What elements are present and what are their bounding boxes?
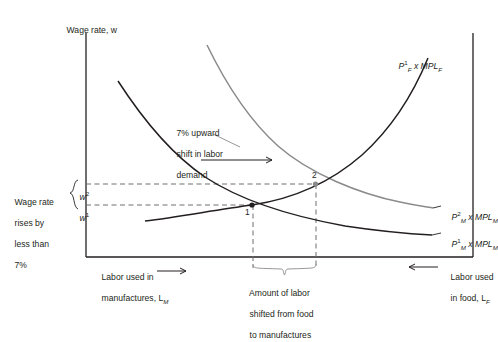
amount-brace <box>253 264 316 275</box>
equilibrium-point-1 <box>249 202 254 207</box>
wage-rate-annotation: Wage rate rises by less than 7% <box>5 186 54 281</box>
arrow-food-direction <box>409 264 438 270</box>
curve-manufactures-1 <box>118 81 432 235</box>
amount-of-labor-annotation: Amount of labor shifted from food to man… <box>240 277 314 342</box>
label-leader-manu-1 <box>432 233 441 235</box>
curve-label-food-1: P1F x MPLF <box>389 47 442 85</box>
point-2-label: 2 <box>312 170 317 180</box>
label-leader-manu-2 <box>433 206 441 208</box>
w1-label: w1 <box>70 199 89 234</box>
x-axis-label-manufactures: Labor used in manufactures, LM <box>92 261 168 318</box>
point-1-label: 1 <box>245 207 250 217</box>
x-axis-label-food: Labor used in food, LF <box>441 261 494 318</box>
curve-label-manufactures-1: P1M x MPLM <box>442 225 498 263</box>
y-axis-title: Wage rate, w <box>57 14 117 46</box>
shift-annotation: 7% upward shift in labor demand <box>167 117 223 191</box>
equilibrium-point-2 <box>313 181 318 186</box>
